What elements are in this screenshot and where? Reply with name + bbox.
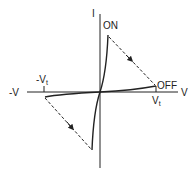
neg-threshold-label: -Vt xyxy=(36,74,48,86)
neg-threshold-main: -V xyxy=(36,74,46,85)
off-state-label: OFF xyxy=(157,80,177,91)
off-branch-positive xyxy=(100,86,156,92)
switch-arrow-upper xyxy=(126,55,131,60)
pos-threshold-sub: t xyxy=(159,100,161,107)
switch-on-to-off-transition xyxy=(109,37,155,85)
switch-arrow-lower xyxy=(67,122,72,128)
current-axis-label: I xyxy=(92,8,95,19)
on-branch-upper xyxy=(100,35,108,92)
voltage-axis-label: V xyxy=(181,87,188,98)
pos-threshold-label: Vt xyxy=(152,95,161,107)
on-branch-lower xyxy=(92,92,100,150)
iv-characteristic-diagram: I ON OFF V -V -Vt Vt xyxy=(0,0,194,173)
neg-threshold-sub: t xyxy=(46,79,48,86)
off-branch-negative xyxy=(45,92,100,97)
on-state-label: ON xyxy=(103,20,118,31)
neg-voltage-axis-label: -V xyxy=(9,87,19,98)
